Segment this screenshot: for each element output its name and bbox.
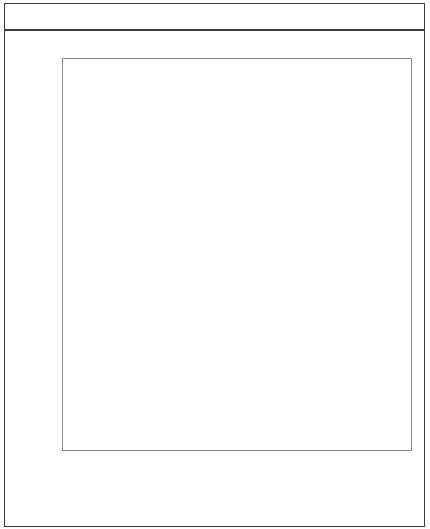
x-axis-ticks: [62, 451, 412, 477]
plot-wrapper: [62, 58, 412, 451]
chart-figure: [4, 3, 425, 527]
chart-title-bar: [5, 4, 424, 31]
bar-series: [62, 58, 412, 451]
